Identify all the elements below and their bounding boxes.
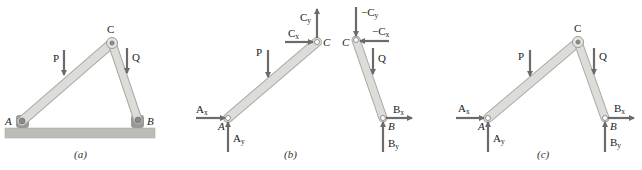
label-bx-c: Bx (614, 102, 625, 116)
panel-c: Ax A Ay P C Q Bx B By (c) (456, 22, 634, 161)
label-cx: Cx (288, 27, 299, 41)
label-c-c: C (574, 22, 581, 34)
label-q: Q (132, 51, 140, 63)
pin-a (19, 118, 25, 124)
label-b-c: B (610, 120, 617, 132)
panel-a: P Q C A B (a) (4, 23, 155, 161)
label-p: P (53, 52, 59, 64)
label-a: A (4, 115, 12, 127)
label-q-fbd: Q (378, 52, 386, 64)
caption-b: (b) (284, 148, 297, 161)
label-cy: Cy (300, 11, 311, 25)
label-c-left: C (323, 36, 331, 48)
caption-c: (c) (537, 148, 550, 161)
label-by-c: By (610, 136, 621, 150)
label-a-fbd: A (217, 120, 225, 132)
label-by: By (388, 137, 399, 151)
label-neg-cx: −Cx (372, 25, 390, 39)
label-ax: Ax (196, 103, 208, 117)
label-c-right: C (342, 36, 350, 48)
label-c: C (107, 23, 114, 35)
label-a-c: A (477, 120, 485, 132)
label-bx: Bx (393, 103, 404, 117)
caption-a: (a) (74, 148, 87, 161)
label-p-fbd: P (256, 46, 262, 58)
label-b-fbd: B (388, 120, 395, 132)
panel-b: Ax A Ay P Cx Cy C C −Cy −Cx Q Bx B By (b… (196, 6, 412, 161)
label-neg-cy: −Cy (361, 6, 379, 20)
pin-b (135, 117, 141, 123)
label-ay-c: Ay (493, 132, 505, 146)
frame-diagram: P Q C A B (a) Ax A Ay P Cx C (0, 0, 642, 170)
label-ay: Ay (233, 132, 245, 146)
label-p-c: P (518, 50, 524, 62)
label-q-c: Q (599, 50, 607, 62)
label-ax-c: Ax (458, 102, 470, 116)
label-b: B (147, 115, 154, 127)
ground (5, 128, 155, 138)
